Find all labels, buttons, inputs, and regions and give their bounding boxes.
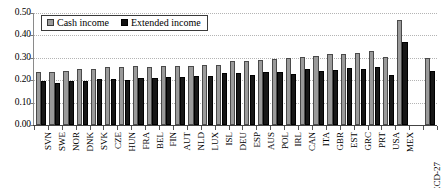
- x-axis-tick-mark: [187, 126, 188, 130]
- x-axis-tick-mark: [381, 126, 382, 130]
- legend-entry-extended-income: Extended income: [121, 18, 201, 28]
- bar-extended-income: [152, 78, 157, 125]
- bar-group: [368, 13, 382, 125]
- bar-cash-income: [286, 58, 291, 125]
- bar-extended-income: [333, 70, 338, 125]
- x-axis-tick-mark: [201, 126, 202, 130]
- x-axis-tick-mark: [242, 126, 243, 130]
- x-axis-tick-label: SVK: [100, 132, 109, 150]
- bar-cash-income: [175, 66, 180, 125]
- bar-extended-income: [194, 76, 199, 125]
- y-axis-tick-mark: [29, 125, 33, 126]
- x-axis-tick-label: OECD-27: [433, 162, 441, 188]
- x-axis-tick-label: NLD: [197, 132, 206, 151]
- x-axis-tick-label: FRA: [142, 132, 151, 150]
- x-axis-tick-label: PRT: [378, 132, 387, 148]
- chart-legend: Cash income Extended income: [41, 15, 208, 31]
- x-axis-tick-label: SVN: [44, 132, 53, 150]
- x-axis-tick-label: HUN: [128, 132, 137, 152]
- x-axis-tick-label: EST: [350, 132, 359, 148]
- bar-extended-income: [125, 80, 130, 125]
- y-axis-tick-mark: [29, 58, 33, 59]
- bar-cash-income: [91, 69, 96, 125]
- bar-cash-income: [36, 72, 41, 125]
- x-axis-tick-mark: [340, 126, 341, 130]
- x-axis-tick-mark: [284, 126, 285, 130]
- x-axis-tick-label: SWE: [58, 132, 67, 151]
- bar-group: [354, 13, 368, 125]
- x-axis-tick-mark: [395, 126, 396, 130]
- bar-cash-income: [161, 66, 166, 125]
- x-axis-tick-mark: [354, 126, 355, 130]
- legend-swatch-extended-icon: [121, 19, 128, 26]
- x-axis-tick-label: ITA: [322, 132, 331, 146]
- x-axis-tick-label: GRC: [364, 132, 373, 151]
- bar-cash-income: [188, 66, 193, 125]
- x-axis-tick-label: CAN: [308, 132, 317, 151]
- x-axis-tick-mark: [159, 126, 160, 130]
- x-axis-tick-label: BEL: [156, 132, 165, 149]
- y-axis-tick-mark: [29, 80, 33, 81]
- chart-container: 0.000.100.200.300.400.50 SVNSWENORDNKSVK…: [0, 0, 441, 188]
- bar-extended-income: [277, 72, 282, 125]
- y-axis-tick-label: 0.00: [3, 120, 31, 130]
- x-axis-tick-mark: [48, 126, 49, 130]
- bar-extended-income: [250, 75, 255, 125]
- x-axis-tick-mark: [62, 126, 63, 130]
- bar-cash-income: [425, 58, 430, 125]
- bar-extended-income: [111, 79, 116, 125]
- y-axis-tick-label: 0.50: [3, 8, 31, 18]
- bar-extended-income: [361, 69, 366, 125]
- bar-cash-income: [300, 57, 305, 125]
- bar-group: [284, 13, 298, 125]
- bar-extended-income: [402, 42, 407, 125]
- x-axis-tick-mark: [437, 126, 438, 130]
- y-axis-tick-mark: [29, 103, 33, 104]
- x-axis-tick-mark: [229, 126, 230, 130]
- x-axis-tick-label: FIN: [169, 132, 178, 147]
- bar-cash-income: [244, 61, 249, 125]
- x-axis-tick-label: LUX: [211, 132, 220, 151]
- x-axis-tick-mark: [423, 126, 424, 130]
- bar-group: [242, 13, 256, 125]
- x-axis-tick-mark: [270, 126, 271, 130]
- bar-cash-income: [230, 61, 235, 125]
- x-axis-tick-mark: [256, 126, 257, 130]
- bar-extended-income: [305, 69, 310, 125]
- bar-cash-income: [216, 65, 221, 125]
- bar-cash-income: [397, 20, 402, 125]
- x-axis-tick-label: IRL: [294, 132, 303, 147]
- bar-cash-income: [272, 59, 277, 125]
- x-axis-tick-labels: SVNSWENORDNKSVKCZEHUNFRABELFINAUTNLDLUXI…: [34, 131, 437, 188]
- bar-extended-income: [375, 67, 380, 125]
- x-axis-tick-label: ESP: [253, 132, 262, 148]
- x-axis-tick-mark: [298, 126, 299, 130]
- bar-group: [340, 13, 354, 125]
- x-axis-tick-mark: [368, 126, 369, 130]
- bar-cash-income: [133, 66, 138, 125]
- bar-group: [270, 13, 284, 125]
- bar-extended-income: [41, 81, 46, 125]
- bar-extended-income: [263, 72, 268, 125]
- legend-swatch-cash-icon: [47, 19, 54, 26]
- bar-cash-income: [105, 67, 110, 125]
- x-axis-tick-label: POL: [281, 132, 290, 149]
- x-axis-tick-label: NOR: [72, 132, 81, 151]
- x-axis-tick-label: USA: [392, 132, 401, 150]
- bar-extended-income: [97, 79, 102, 125]
- bar-group: [326, 13, 340, 125]
- bar-cash-income: [49, 72, 54, 125]
- legend-label-cash-income: Cash income: [57, 18, 109, 28]
- bar-group: [312, 13, 326, 125]
- bar-extended-income: [69, 81, 74, 125]
- bar-cash-income: [77, 69, 82, 125]
- y-axis-tick-label: 0.40: [3, 31, 31, 41]
- bar-extended-income: [138, 78, 143, 125]
- x-axis-tick-label: GBR: [336, 132, 345, 151]
- y-axis-tick-mark: [29, 13, 33, 14]
- bar-extended-income: [208, 76, 213, 125]
- bar-cash-income: [341, 54, 346, 125]
- x-axis-tick-label: AUT: [183, 132, 192, 151]
- bar-group: [229, 13, 243, 125]
- bar-cash-income: [327, 54, 332, 125]
